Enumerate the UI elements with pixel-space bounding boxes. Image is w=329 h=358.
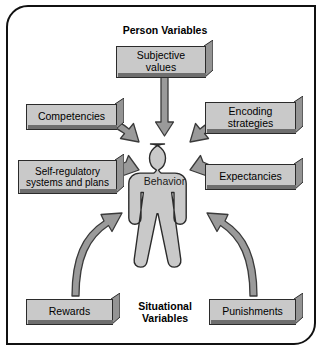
- box-competencies[interactable]: Competencies: [26, 98, 124, 130]
- box-expectancies[interactable]: Expectancies: [205, 158, 303, 190]
- title-person-variables: Person Variables: [100, 24, 230, 36]
- box-punishments[interactable]: Punishments: [209, 293, 303, 325]
- line2: values: [146, 61, 176, 73]
- box-shadow: [118, 73, 206, 77]
- box-shadow: [28, 320, 113, 324]
- arrow-rewards-to-behavior: [72, 213, 122, 296]
- line1: Encoding: [229, 105, 273, 117]
- arrow-punishments-to-behavior: [207, 213, 257, 296]
- box-self-regulatory[interactable]: Self-regulatorysystems and plans: [18, 154, 124, 194]
- box-subjective-values[interactable]: Subjectivevalues: [116, 40, 213, 78]
- line1: Rewards: [49, 306, 90, 318]
- box-encoding-strategies[interactable]: Encodingstrategies: [205, 96, 303, 134]
- line2: systems and plans: [26, 177, 109, 188]
- title-situational-variables: Situational Variables: [117, 300, 213, 325]
- line1: Self-regulatory: [35, 166, 100, 177]
- line1: Expectancies: [219, 171, 281, 183]
- diagram-canvas: Person Variables Situational Variables B…: [0, 0, 329, 358]
- box-rewards[interactable]: Rewards: [26, 293, 120, 325]
- line1: Subjective: [137, 49, 185, 61]
- box-shadow: [28, 125, 117, 129]
- line1: Competencies: [38, 111, 105, 123]
- human-figure-behavior: [129, 144, 186, 267]
- arrow-subjective-values-to-behavior: [156, 77, 174, 136]
- situational-line2: Variables: [142, 312, 188, 324]
- line2: strategies: [228, 117, 274, 129]
- box-shadow: [20, 189, 117, 193]
- situational-line1: Situational: [138, 300, 192, 312]
- box-shadow: [211, 320, 296, 324]
- box-shadow: [207, 185, 296, 189]
- line1: Punishments: [222, 306, 283, 318]
- box-shadow: [207, 129, 296, 133]
- behavior-label: Behavior: [129, 175, 200, 187]
